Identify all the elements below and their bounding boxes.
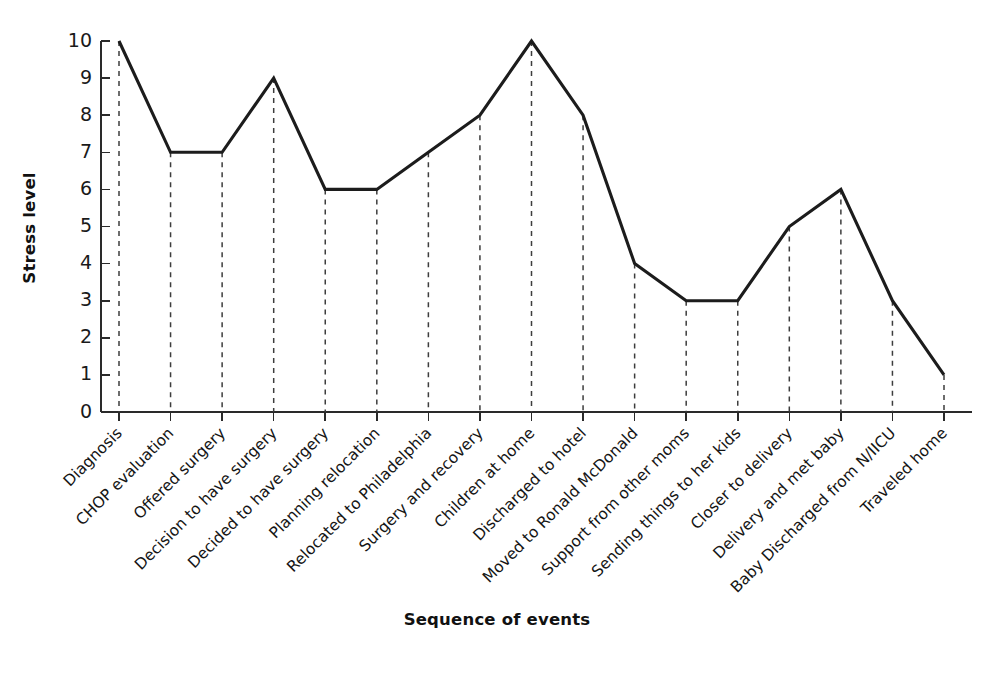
data-droplines xyxy=(119,41,944,412)
x-axis-title: Sequence of events xyxy=(404,610,591,629)
y-tick-label: 6 xyxy=(80,177,92,199)
x-axis-ticks xyxy=(119,412,944,421)
chart-svg: Stress level 012345678910 DiagnosisCHOP … xyxy=(0,0,993,677)
stress-level-line-chart: Stress level 012345678910 DiagnosisCHOP … xyxy=(0,0,993,677)
x-category-label: CHOP evaluation xyxy=(72,424,177,529)
y-tick-label: 3 xyxy=(80,288,92,310)
y-axis-ticks: 012345678910 xyxy=(68,29,110,422)
y-tick-label: 8 xyxy=(80,103,92,125)
y-tick-label: 5 xyxy=(80,214,92,236)
y-tick-label: 9 xyxy=(80,66,92,88)
y-tick-label: 0 xyxy=(80,400,92,422)
y-tick-label: 4 xyxy=(80,251,92,273)
y-tick-label: 2 xyxy=(80,325,92,347)
y-tick-label: 1 xyxy=(80,362,92,384)
y-tick-label: 10 xyxy=(68,29,92,51)
y-axis-title-group: Stress level xyxy=(20,172,39,283)
y-axis-title: Stress level xyxy=(20,172,39,283)
x-category-label: Offered surgery xyxy=(130,424,229,523)
y-tick-label: 7 xyxy=(80,140,92,162)
x-category-label: Traveled home xyxy=(857,424,951,518)
x-axis-category-labels: DiagnosisCHOP evaluationOffered surgeryD… xyxy=(60,424,951,596)
